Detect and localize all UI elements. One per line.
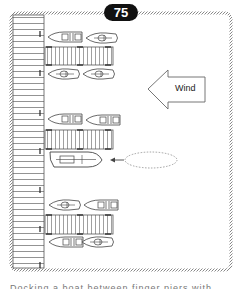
- wind-label: Wind: [175, 83, 196, 93]
- previous-position-outline: [125, 152, 177, 168]
- moored-sailboat: [48, 69, 80, 79]
- moored-motorboat: [49, 237, 83, 247]
- moored-sailboat: [86, 33, 118, 43]
- moored-motorboat: [86, 115, 120, 125]
- finger-pier-bottom: [45, 200, 118, 247]
- moored-sailboat: [83, 69, 115, 79]
- moored-motorboat: [48, 32, 82, 42]
- moored-motorboat: [48, 114, 82, 124]
- diagram-canvas: [0, 0, 240, 289]
- moored-sailboat: [49, 200, 81, 210]
- figure-number-badge: 75: [104, 4, 138, 21]
- moored-motorboat: [84, 200, 118, 210]
- approach-arrow: [110, 158, 124, 163]
- finger-pier-top: [45, 32, 118, 79]
- moored-sailboat: [82, 237, 114, 247]
- marina-docking-diagram: 75 Wind Docking a boat between finger pi…: [0, 0, 240, 289]
- main-pier: [13, 15, 44, 268]
- figure-caption-cropped: Docking a boat between finger piers with…: [10, 283, 234, 289]
- finger-pier-middle: [45, 114, 177, 168]
- docking-sailboat: [50, 152, 102, 167]
